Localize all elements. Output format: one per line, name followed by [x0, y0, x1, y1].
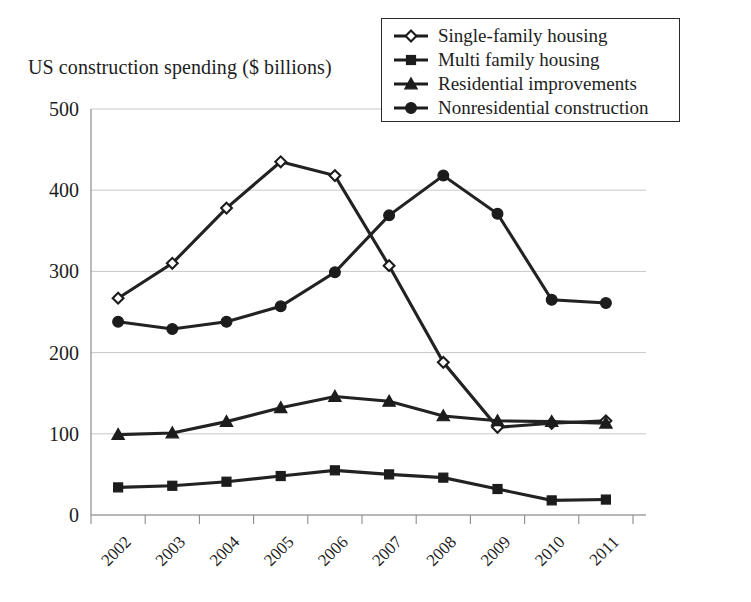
x-axis-tick-label: 2002 [97, 532, 134, 569]
marker-filled-circle [113, 316, 124, 327]
y-axis-tick-label: 400 [49, 179, 79, 201]
chart-legend: Single-family housingMulti family housin… [381, 18, 680, 122]
marker-filled-circle [546, 294, 557, 305]
series-line-path [118, 470, 606, 500]
marker-filled-square [114, 483, 123, 492]
series-nonresidential-construction [113, 170, 612, 334]
x-axis-tick-label: 2004 [206, 532, 244, 570]
legend-swatch [392, 50, 430, 70]
marker-open-diamond [406, 31, 417, 42]
marker-filled-square [601, 495, 610, 504]
legend-item[interactable]: Single-family housing [392, 24, 679, 48]
marker-filled-circle [492, 208, 503, 219]
series-line-path [118, 396, 606, 434]
legend-item[interactable]: Nonresidential construction [392, 96, 679, 120]
x-axis-tick-label: 2009 [477, 532, 514, 569]
x-axis-tick-label: 2011 [586, 532, 623, 569]
legend-swatch [392, 98, 430, 118]
gridlines [91, 109, 646, 515]
series-line-path [118, 162, 606, 428]
marker-filled-circle [438, 170, 449, 181]
legend-item-label: Nonresidential construction [438, 98, 649, 118]
y-axis-tick-label: 200 [49, 342, 79, 364]
legend-swatch [392, 26, 430, 46]
y-axis-tick-label: 100 [49, 423, 79, 445]
marker-filled-square [439, 473, 448, 482]
x-axis-tick-label: 2010 [531, 532, 568, 569]
legend-item-label: Multi family housing [438, 50, 600, 70]
marker-filled-circle [384, 210, 395, 221]
x-axis-tick-label: 2007 [368, 532, 406, 570]
legend-marker-filled-square [392, 50, 430, 70]
series-single-family-housing [113, 156, 612, 432]
marker-filled-circle [406, 103, 417, 114]
marker-filled-circle [330, 267, 341, 278]
legend-item-label: Single-family housing [438, 26, 607, 46]
marker-filled-square [330, 466, 339, 475]
y-axis-tick-label: 500 [49, 98, 79, 120]
x-axis-tick-label: 2005 [260, 532, 297, 569]
marker-filled-circle [601, 298, 612, 309]
legend-swatch [392, 74, 430, 94]
marker-filled-circle [167, 324, 178, 335]
marker-filled-square [276, 472, 285, 481]
series-multi-family-housing [114, 466, 611, 505]
marker-filled-square [222, 477, 231, 486]
x-axis-tick-label: 2008 [423, 532, 460, 569]
x-axis-tick-label: 2003 [152, 532, 189, 569]
marker-filled-square [385, 470, 394, 479]
legend-marker-filled-circle [392, 98, 430, 118]
legend-item[interactable]: Residential improvements [392, 72, 679, 96]
legend-marker-filled-triangle [392, 74, 430, 94]
marker-filled-square [493, 485, 502, 494]
legend-marker-open-diamond [392, 26, 430, 46]
marker-filled-circle [275, 301, 286, 312]
legend-item[interactable]: Multi family housing [392, 48, 679, 72]
marker-filled-square [547, 496, 556, 505]
series-residential-improvements [112, 390, 612, 439]
marker-filled-square [168, 481, 177, 490]
x-axis-ticks: 2002200320042005200620072008200920102011 [91, 515, 633, 570]
axis-lines [91, 109, 646, 515]
chart-container: US construction spending ($ billions) 01… [0, 0, 751, 602]
y-axis-ticks: 0100200300400500 [49, 98, 79, 526]
y-axis-tick-label: 300 [49, 260, 79, 282]
marker-filled-circle [221, 316, 232, 327]
marker-filled-square [407, 56, 416, 65]
legend-item-label: Residential improvements [438, 74, 637, 94]
y-axis-tick-label: 0 [69, 504, 79, 526]
x-axis-tick-label: 2006 [314, 532, 351, 569]
data-series [112, 156, 612, 505]
series-line-path [118, 176, 606, 329]
